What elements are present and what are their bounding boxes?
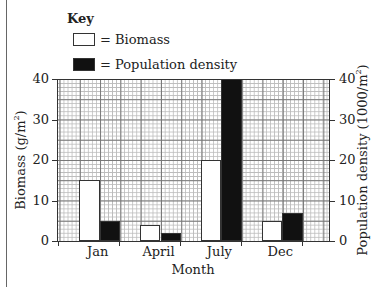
bar-population-density-jan bbox=[100, 221, 120, 241]
legend-swatch-biomass bbox=[73, 33, 95, 46]
x-tick-label-july: July bbox=[189, 244, 249, 259]
x-tick bbox=[58, 242, 59, 246]
y-axis-left-title: Biomass (g/m2) bbox=[12, 110, 27, 209]
y-left-tick-label-40: 40 bbox=[25, 71, 49, 86]
x-tick bbox=[302, 242, 303, 246]
y-right-tick bbox=[330, 201, 335, 202]
bar-population-density-april bbox=[161, 233, 181, 241]
bar-biomass-dec bbox=[262, 221, 282, 241]
bar-population-density-july bbox=[221, 79, 241, 241]
y-left-tick-label-30: 30 bbox=[25, 112, 49, 127]
bar-population-density-dec bbox=[282, 213, 302, 241]
y-left-tick bbox=[52, 201, 57, 202]
y-left-tick bbox=[52, 160, 57, 161]
y-right-tick bbox=[330, 241, 335, 242]
y-right-tick bbox=[330, 160, 335, 161]
x-tick bbox=[119, 242, 120, 246]
legend-title: Key bbox=[67, 11, 94, 26]
y-left-tick-label-20: 20 bbox=[25, 152, 49, 167]
y-left-tick bbox=[52, 79, 57, 80]
legend-swatch-population-density bbox=[73, 58, 95, 71]
legend-item-biomass: = Biomass bbox=[73, 31, 170, 47]
x-axis-title: Month bbox=[163, 262, 223, 277]
y-left-tick-label-10: 10 bbox=[25, 193, 49, 208]
legend-item-population-density: = Population density bbox=[73, 56, 237, 72]
y-left-tick bbox=[52, 241, 57, 242]
left-border bbox=[6, 0, 7, 287]
plot-area bbox=[57, 79, 330, 242]
legend-label-biomass: = Biomass bbox=[100, 32, 170, 47]
x-tick-label-april: April bbox=[129, 244, 189, 259]
y-right-tick bbox=[330, 120, 335, 121]
y-axis-right-title: Population density (1000/m2) bbox=[354, 64, 369, 255]
x-tick-label-dec: Dec bbox=[250, 244, 310, 259]
bar-biomass-july bbox=[201, 160, 221, 241]
y-left-tick-label-0: 0 bbox=[25, 233, 49, 248]
x-tick-label-jan: Jan bbox=[68, 244, 128, 259]
y-right-tick bbox=[330, 79, 335, 80]
x-tick bbox=[180, 242, 181, 246]
y-left-tick bbox=[52, 120, 57, 121]
legend-label-population-density: = Population density bbox=[100, 57, 237, 72]
x-tick bbox=[241, 242, 242, 246]
bar-biomass-april bbox=[140, 225, 160, 241]
bar-biomass-jan bbox=[79, 180, 99, 241]
